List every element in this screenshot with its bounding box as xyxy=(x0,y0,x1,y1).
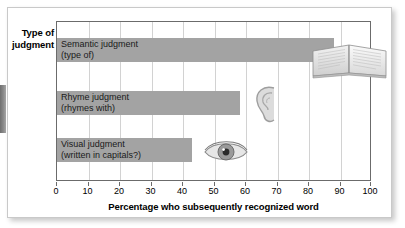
x-tick-label-40: 40 xyxy=(177,186,187,196)
x-tick-label-10: 10 xyxy=(82,186,92,196)
x-tick-label-90: 90 xyxy=(334,186,344,196)
bar-visual-judgment xyxy=(57,138,192,162)
x-tick-label-30: 30 xyxy=(145,186,155,196)
bar-rhyme-judgment xyxy=(57,91,240,115)
x-tick-label-70: 70 xyxy=(271,186,281,196)
x-axis-ticks: 0 10 20 30 40 50 60 70 80 90 100 xyxy=(56,182,371,196)
figure-root: Type of judgment xyxy=(0,0,405,228)
x-tick-label-20: 20 xyxy=(114,186,124,196)
bar-semantic-judgment xyxy=(57,38,334,62)
left-edge-stub xyxy=(0,85,6,133)
ear-icon xyxy=(253,84,283,124)
x-axis-title: Percentage who subsequently recognized w… xyxy=(56,201,371,212)
open-book-icon xyxy=(310,42,390,80)
eye-icon xyxy=(203,136,249,166)
x-tick-label-100: 100 xyxy=(362,186,377,196)
x-tick-label-50: 50 xyxy=(208,186,218,196)
x-tick-label-80: 80 xyxy=(303,186,313,196)
plot-area: Semantic judgment(type of) Rhyme judgmen… xyxy=(56,21,371,181)
x-tick-label-0: 0 xyxy=(53,186,58,196)
x-tick-label-60: 60 xyxy=(240,186,250,196)
y-axis-caption: Type of judgment xyxy=(8,27,54,50)
